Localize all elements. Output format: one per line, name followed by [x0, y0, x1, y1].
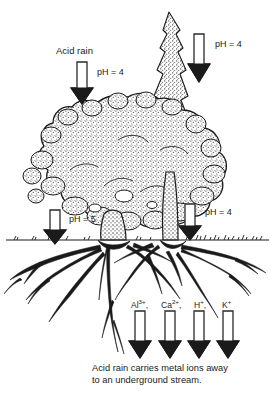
acid-rain-figure: Acid rain pH = 4 pH = 4 pH = 5 pH = 4 Al…: [0, 0, 275, 394]
arrow-rain-ground-right: [179, 204, 201, 240]
arrow-ion-outflow-3: [217, 311, 239, 358]
label-ph-ground-right: pH = 4: [205, 208, 232, 217]
label-acid-rain: Acid rain: [56, 46, 93, 56]
label-hydrogen-ion: H+,: [194, 298, 206, 310]
arrow-ion-outflow-2: [188, 311, 210, 358]
arrow-ion-outflow-0: [129, 311, 151, 358]
label-aluminium-ion: Al3+,: [131, 298, 148, 310]
ion-charge: 2+: [172, 298, 179, 305]
ion-charge: 3+: [139, 298, 146, 305]
ion-element: Al: [131, 300, 139, 310]
label-ph-ground-left: pH = 5: [69, 215, 96, 224]
arrow-ion-outflow-1: [159, 311, 181, 358]
caption-line-2: to an underground stream.: [92, 374, 274, 386]
arrow-rain-top-left: [71, 62, 93, 104]
figure-caption: Acid rain carries metal ions away to an …: [92, 362, 274, 387]
label-calcium-ion: Ca2+,: [161, 298, 181, 310]
arrow-overlay: [0, 0, 275, 394]
ion-element: Ca: [161, 300, 172, 310]
ion-separator: ,: [204, 300, 206, 310]
ion-charge: +: [228, 298, 232, 305]
arrow-rain-ground-left: [44, 210, 66, 244]
label-ph-top-right: pH = 4: [215, 40, 242, 49]
arrow-rain-top-right: [188, 34, 210, 82]
ion-separator: ,: [179, 300, 181, 310]
label-ph-top-left: pH = 4: [97, 68, 124, 77]
caption-line-1: Acid rain carries metal ions away: [92, 362, 274, 374]
label-potassium-ion: K+: [222, 298, 231, 310]
ion-separator: ,: [146, 300, 148, 310]
